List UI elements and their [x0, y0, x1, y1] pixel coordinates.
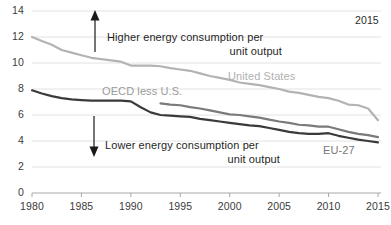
x-axis-tick-label: 2005: [259, 201, 299, 212]
x-axis-tick-label: 1985: [61, 201, 101, 212]
y-axis-tick-label: 14: [2, 5, 24, 16]
series-label-eu27: EU-27: [323, 144, 355, 156]
series-line-oecd-less-u-s: [161, 103, 378, 137]
down-arrow-icon: [90, 116, 99, 157]
x-axis-tick-label: 2010: [309, 201, 349, 212]
y-axis-tick-label: 8: [2, 83, 24, 94]
y-axis-tick-label: 0: [2, 187, 24, 198]
y-axis-tick-label: 6: [2, 109, 24, 120]
lower-consumption-line1: Lower energy consumption per: [105, 139, 259, 151]
x-axis-tick-label: 1990: [111, 201, 151, 212]
x-axis-tick-label: 2000: [210, 201, 250, 212]
x-axis-tick-label: 1980: [12, 201, 52, 212]
higher-consumption-annotation: Higher energy consumption per unit outpu…: [107, 30, 282, 58]
y-axis-tick-label: 10: [2, 57, 24, 68]
up-arrow-icon: [91, 10, 100, 52]
energy-intensity-chart: 02468101214 1980198519901995200020052010…: [0, 0, 391, 225]
series-label-oecd-less-us: OECD less U.S.: [102, 85, 182, 97]
lower-consumption-line2: unit output: [105, 152, 280, 166]
y-axis-tick-label: 12: [2, 31, 24, 42]
x-axis-tick-label: 1995: [160, 201, 200, 212]
y-axis-tick-label: 2: [2, 161, 24, 172]
y-axis-tick-label: 4: [2, 135, 24, 146]
higher-consumption-line2: unit output: [107, 44, 282, 58]
year-note: 2015: [355, 14, 379, 26]
x-axis-tick-label: 2015: [358, 201, 391, 212]
lower-consumption-annotation: Lower energy consumption per unit output: [105, 138, 280, 166]
series-label-united-states: United States: [228, 70, 295, 82]
x-axis-ticks-group: [32, 193, 378, 197]
higher-consumption-line1: Higher energy consumption per: [107, 31, 263, 43]
